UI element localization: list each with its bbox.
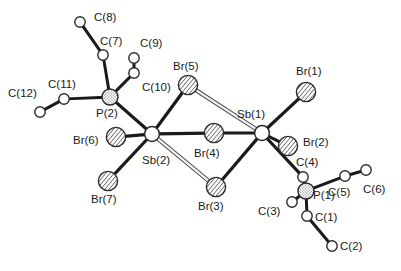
atom-sb1 <box>255 126 270 141</box>
atom-c8 <box>75 17 85 27</box>
atom-c2 <box>327 241 337 251</box>
atom-c12 <box>35 107 45 117</box>
atom-br2 <box>278 136 297 155</box>
atom-label-sb2: Sb(2) <box>142 154 170 166</box>
atom-label-sb1: Sb(1) <box>237 108 265 120</box>
atom-br4 <box>204 123 223 142</box>
atom-c6 <box>361 165 371 175</box>
atom-label-br2: Br(2) <box>303 136 329 148</box>
atom-label-br4: Br(4) <box>194 147 220 159</box>
bond-p2-sb2 <box>113 100 149 131</box>
atom-label-c5: C(5) <box>328 186 351 198</box>
atom-label-br5: Br(5) <box>173 60 199 72</box>
atom-c9 <box>129 53 139 63</box>
atom-c4 <box>298 172 308 182</box>
atom-label-br7: Br(7) <box>91 193 117 205</box>
atom-p2 <box>102 89 118 105</box>
crystal-structure-figure: C(8)C(7)C(9)C(10)C(11)C(12)P(2)Br(5)Br(6… <box>0 0 401 271</box>
label-layer: C(8)C(7)C(9)C(10)C(11)C(12)P(2)Br(5)Br(6… <box>8 11 386 252</box>
atom-label-c1: C(1) <box>315 211 338 223</box>
atom-label-c8: C(8) <box>94 11 117 23</box>
atom-sb2 <box>145 127 160 142</box>
bond-c11-p2 <box>67 97 106 99</box>
atom-label-c10: C(10) <box>142 81 171 93</box>
structure-drawing: C(8)C(7)C(9)C(10)C(11)C(12)P(2)Br(5)Br(6… <box>0 0 401 271</box>
atom-c1 <box>302 211 312 221</box>
atom-label-p2: P(2) <box>96 107 118 119</box>
atom-label-c9: C(9) <box>140 37 163 49</box>
atom-c7 <box>98 50 108 60</box>
atom-br6 <box>106 127 125 146</box>
bond-c7-p2 <box>103 58 109 93</box>
atom-label-br6: Br(6) <box>73 134 99 146</box>
atom-label-br3: Br(3) <box>198 200 224 212</box>
atom-br5 <box>178 75 197 94</box>
atom-c5 <box>340 171 350 181</box>
atom-label-c3: C(3) <box>258 205 281 217</box>
atom-label-c6: C(6) <box>363 183 386 195</box>
bond-sb2-br5 <box>154 89 184 130</box>
atom-br7 <box>98 171 117 190</box>
atom-c3 <box>287 197 297 207</box>
bond-c12-c11 <box>43 100 62 110</box>
atom-label-c7: C(7) <box>100 35 123 47</box>
bond-br3-sb1 <box>219 136 259 183</box>
atom-label-c12: C(12) <box>8 87 37 99</box>
atom-c11 <box>59 94 69 104</box>
bond-c8-c7 <box>82 24 102 52</box>
atom-c10 <box>129 68 139 78</box>
bond-sb2-br4 <box>156 133 209 134</box>
atom-br3 <box>206 177 225 196</box>
atom-p1 <box>298 183 314 199</box>
atom-br1 <box>296 82 315 101</box>
atom-label-c2: C(2) <box>340 240 363 252</box>
atom-label-c4: C(4) <box>296 156 319 168</box>
atom-label-c11: C(11) <box>48 78 76 90</box>
atom-label-br1: Br(1) <box>296 65 322 77</box>
bond-sb1-br1 <box>265 96 302 131</box>
